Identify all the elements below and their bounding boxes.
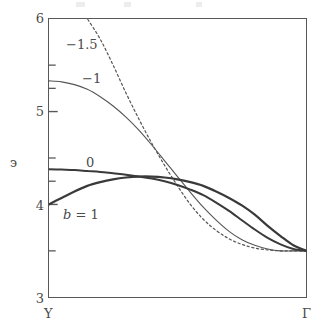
curve-label-minus-1-5: −1.5: [66, 38, 98, 51]
scan-artifact: [196, 2, 202, 7]
curve-label-b-value: = 1: [71, 207, 98, 222]
y-axis-title: э: [10, 157, 17, 170]
curve-label-b-equals-1: b = 1: [63, 208, 99, 221]
y-tick-label-3: 3: [22, 292, 44, 305]
scan-artifact: [124, 2, 131, 7]
y-tick-label-5: 5: [22, 105, 44, 118]
x-tick-label-Y: Y: [44, 307, 53, 320]
y-tick-label-6: 6: [22, 12, 44, 25]
figure-root: э 6 5 4 3 Y Γ −1.5 −1 0 b = 1: [0, 0, 326, 331]
curve-label-minus-1: −1: [82, 72, 101, 85]
x-tick-label-Gamma: Γ: [302, 307, 311, 320]
y-tick-label-4: 4: [22, 199, 44, 212]
curve-label-zero: 0: [86, 156, 94, 169]
scan-artifact: [76, 2, 85, 7]
